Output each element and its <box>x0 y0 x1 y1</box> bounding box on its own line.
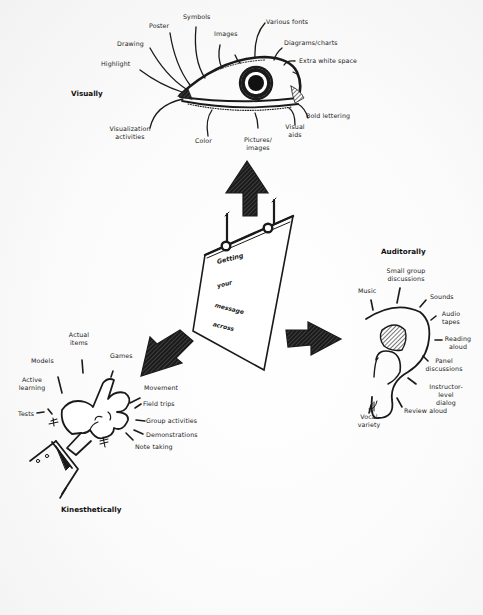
auditory-label-review-aloud: Review aloud <box>404 407 447 415</box>
visual-label-pictures-images: Pictures/ images <box>244 136 272 152</box>
auditory-label-audio-tapes: Audio tapes <box>442 310 460 326</box>
visual-label-visual-aids: Visual aids <box>285 123 304 139</box>
arrow-up-icon <box>226 161 268 216</box>
auditory-label-small-group-discussions: Small group discussions <box>387 267 426 283</box>
auditory-label-music: Music <box>358 287 376 295</box>
visual-label-extra-white-space: Extra white space <box>299 57 357 65</box>
kinesthetic-label-movement: Movement <box>144 384 178 392</box>
kinesthetic-label-demonstrations: Demonstrations <box>146 431 198 439</box>
visual-label-symbols: Symbols <box>183 13 210 21</box>
visual-label-highlight: Highlight <box>101 60 130 68</box>
kinesthetic-section-title: Kinesthetically <box>61 505 121 514</box>
visual-label-images: Images <box>214 30 238 38</box>
auditory-label-reading-aloud: Reading aloud <box>445 335 471 351</box>
visual-label-diagrams-charts: Diagrams/charts <box>284 39 338 47</box>
hand-icon <box>30 360 145 498</box>
kinesthetic-label-tests: Tests <box>18 410 34 418</box>
kinesthetic-label-active-learning: Active learning <box>19 376 46 392</box>
kinesthetic-label-games: Games <box>110 352 133 360</box>
visual-label-visualization-activities: Visualization activities <box>109 125 150 141</box>
arrow-down-left-icon <box>141 330 193 376</box>
visual-label-drawing: Drawing <box>117 40 144 48</box>
visual-label-color: Color <box>195 137 212 145</box>
kinesthetic-label-actual-items: Actual items <box>69 331 89 347</box>
auditory-label-panel-discussions: Panel discussions <box>425 357 462 373</box>
arrow-right-icon <box>286 322 341 355</box>
kinesthetic-label-group-activities: Group activities <box>146 417 197 425</box>
kinesthetic-label-field-trips: Field trips <box>143 400 175 408</box>
auditory-label-instructor-level-dialog: Instructor- level dialog <box>428 383 465 408</box>
kinesthetic-label-models: Models <box>31 357 54 365</box>
visual-label-various-fonts: Various fonts <box>266 18 308 26</box>
auditory-label-sounds: Sounds <box>430 293 454 301</box>
visual-label-poster: Poster <box>149 22 169 30</box>
eye-icon <box>140 23 308 136</box>
visual-section-title: Visually <box>71 89 103 98</box>
visual-label-bold-lettering: Bold lettering <box>306 112 350 120</box>
learning-styles-diagram: Visually Auditorally Kinesthetically Get… <box>0 0 483 615</box>
kinesthetic-label-note-taking: Note taking <box>135 443 173 451</box>
auditory-section-title: Auditorally <box>381 247 426 256</box>
auditory-label-vocal-variety: Vocal variety <box>358 413 381 429</box>
poster-icon <box>193 198 293 370</box>
